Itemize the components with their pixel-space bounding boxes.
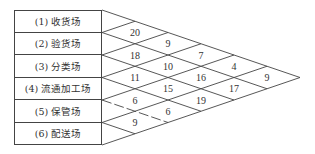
cell-1-2: 20 (130, 27, 140, 38)
cell-1-5: 4 (232, 61, 237, 72)
cell-1-4: 7 (199, 50, 204, 61)
cell-4-6: 6 (166, 106, 171, 117)
cell-5-6: 9 (133, 117, 138, 128)
cell-values: 20 18 11 6 9 9 10 15 6 7 16 19 4 17 9 (130, 27, 270, 128)
cell-2-4: 10 (163, 61, 173, 72)
cell-1-3: 9 (166, 38, 171, 49)
cell-1-6: 9 (265, 72, 270, 83)
cell-2-3: 18 (130, 50, 140, 61)
cell-3-4: 11 (130, 72, 140, 83)
relationship-triangle: 20 18 11 6 9 9 10 15 6 7 16 19 4 17 9 (0, 0, 315, 154)
cell-4-5: 6 (133, 95, 138, 106)
cell-2-6: 17 (229, 83, 239, 94)
cell-3-5: 15 (163, 83, 173, 94)
cell-3-6: 19 (196, 95, 206, 106)
cell-2-5: 16 (196, 72, 206, 83)
